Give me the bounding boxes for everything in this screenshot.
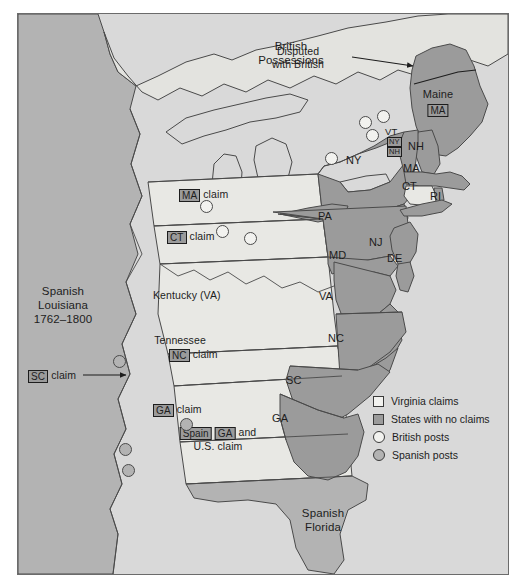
chip-ga: GA [153,404,174,417]
state-label-ri: RI [430,190,441,203]
state-label-de: DE [387,252,402,265]
legend-item-spanish-posts: Spanish posts [373,449,509,461]
british-post-marker [325,152,338,165]
map-frame: British Possessions Spanish Louisiana 17… [17,13,509,575]
british-post-marker [359,116,372,129]
claim-label-vt-nh: NH [387,146,402,159]
chip-nh: NH [387,147,402,157]
state-label-kentucky-va: Kentucky (VA) [153,289,221,302]
legend-item-virginia-claims: Virginia claims [373,395,509,407]
claim-label-ga: GA claim [153,403,202,417]
state-label-pa: PA [318,210,332,223]
legend-label: Virginia claims [391,395,459,407]
legend-swatch-gray-circle [373,449,385,461]
chip-ma: MA [427,104,448,117]
claim-second-line: U.S. claim [180,440,257,453]
chip-ga: GA [215,427,236,440]
claim-label-nc: NC claim [169,348,218,362]
chip-nc: NC [169,349,190,362]
state-label-ma: MA [403,162,420,175]
claim-suffix: claim [190,230,215,242]
claim-suffix: claim [51,369,76,381]
chip-ma: MA [179,189,200,202]
claim-suffix: claim [203,188,228,200]
state-label-maine: Maine [423,88,453,101]
state-label-va: VA [319,290,333,303]
region-label-spanish-louisiana: Spanish Louisiana 1762–1800 [34,284,92,326]
state-label-nc: NC [328,332,344,345]
spanish-post-marker [119,443,132,456]
map-page: British Possessions Spanish Louisiana 17… [0,0,518,586]
british-post-marker [377,110,390,123]
legend-label: States with no claims [391,413,490,425]
legend-swatch-white-square [373,396,384,407]
state-label-tennessee: Tennessee [154,334,206,347]
state-label-ny: NY [346,154,361,167]
chip-ct: CT [167,231,187,244]
state-label-ct: CT [402,180,417,193]
british-post-marker [216,225,229,238]
claim-label-ct-strip: CT claim [167,230,215,244]
claim-connector: and [238,426,256,438]
legend-item-states-no-claims: States with no claims [373,413,509,425]
spanish-post-marker [113,355,126,368]
legend-item-british-posts: British posts [373,431,509,443]
legend-label: British posts [392,431,449,443]
state-label-sc: SC [286,374,301,387]
claim-label-maine-ma: MA [427,103,448,117]
state-label-md: MD [329,249,346,262]
claim-label-spain-ga-us: Spain GA and U.S. claim [180,426,257,452]
state-label-ga: GA [272,412,288,425]
legend-swatch-white-circle [373,431,385,443]
claim-suffix: claim [193,348,218,360]
british-post-marker [200,200,213,213]
claim-suffix: claim [177,403,202,415]
british-post-marker [366,129,379,142]
map-legend: Virginia claims States with no claims Br… [373,395,509,467]
legend-label: Spanish posts [392,449,458,461]
chip-sc: SC [28,370,48,383]
state-label-nj: NJ [369,236,383,249]
spanish-post-marker [180,418,193,431]
ma-claim-strip-land [148,174,323,226]
spanish-post-marker [122,464,135,477]
british-post-marker [244,232,257,245]
claim-label-sc: SC claim [28,369,76,383]
region-label-spanish-florida: Spanish Florida [302,506,344,534]
state-label-nh: NH [408,140,424,153]
annotation-disputed-with-british: Disputed with British [272,45,324,70]
legend-swatch-gray-square [373,414,384,425]
